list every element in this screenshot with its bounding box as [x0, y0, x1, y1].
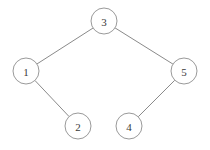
- tree-node-2[interactable]: 2: [65, 113, 91, 139]
- tree-node-4[interactable]: 4: [116, 113, 142, 139]
- node-label-3: 3: [101, 16, 107, 28]
- node-label-5: 5: [181, 66, 187, 78]
- tree-node-3[interactable]: 3: [91, 8, 117, 34]
- binary-tree-diagram: 3 1 5 2 4: [0, 0, 210, 150]
- node-label-2: 2: [75, 121, 81, 133]
- tree-node-5[interactable]: 5: [171, 58, 197, 84]
- node-label-4: 4: [126, 121, 132, 133]
- node-label-1: 1: [23, 66, 29, 78]
- tree-node-1[interactable]: 1: [13, 58, 39, 84]
